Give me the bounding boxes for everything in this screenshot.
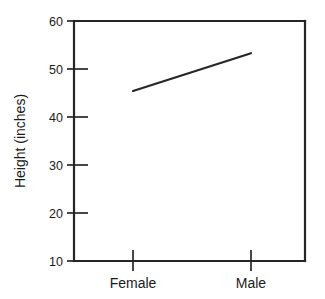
y-tick-label-60: 60 bbox=[49, 15, 63, 29]
y-tick-label-40: 40 bbox=[49, 111, 63, 125]
x-tick-label-female: Female bbox=[110, 275, 157, 291]
y-tick-label-30: 30 bbox=[49, 159, 63, 173]
y-tick-label-50: 50 bbox=[49, 63, 63, 77]
chart-figure: 60 50 40 30 20 10 Female Male Height (in… bbox=[0, 0, 325, 299]
y-tick-label-20: 20 bbox=[49, 207, 63, 221]
y-tick-label-10: 10 bbox=[49, 255, 63, 269]
line-chart-svg: 60 50 40 30 20 10 Female Male Height (in… bbox=[0, 0, 325, 299]
y-axis-title: Height (inches) bbox=[12, 94, 28, 188]
x-tick-label-male: Male bbox=[236, 275, 267, 291]
